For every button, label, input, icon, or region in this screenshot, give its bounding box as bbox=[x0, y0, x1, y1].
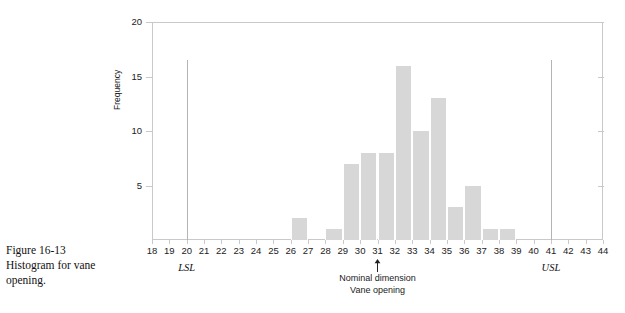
histogram-bar bbox=[482, 229, 499, 240]
histogram-bar bbox=[360, 153, 377, 240]
x-axis-tick bbox=[430, 240, 431, 244]
histogram-bar bbox=[378, 153, 395, 240]
usl-line bbox=[551, 60, 552, 240]
x-axis-tick bbox=[482, 240, 483, 244]
histogram-bar bbox=[291, 218, 308, 240]
histogram-bar bbox=[430, 98, 447, 240]
x-axis-tick bbox=[586, 240, 587, 244]
y-axis-tick-label: 10 bbox=[120, 125, 142, 136]
histogram-bar bbox=[499, 229, 516, 240]
x-axis-tick bbox=[447, 240, 448, 244]
up-arrow-icon bbox=[373, 258, 382, 271]
x-axis-tick bbox=[464, 240, 465, 244]
y-axis-tick-label: 15 bbox=[120, 71, 142, 82]
y-axis-tick-label: 5 bbox=[120, 180, 142, 191]
histogram-figure: Frequency 5101520 1819202122232425262728… bbox=[0, 0, 625, 313]
x-axis-tick bbox=[516, 240, 517, 244]
x-axis-title: Vane opening bbox=[298, 284, 458, 296]
nominal-dimension-annotation: Nominal dimensionVane opening bbox=[298, 272, 458, 296]
x-axis-tick bbox=[360, 240, 361, 244]
x-axis-tick bbox=[395, 240, 396, 244]
x-axis-tick bbox=[343, 240, 344, 244]
x-axis-tick bbox=[603, 240, 604, 244]
x-axis-tick bbox=[499, 240, 500, 244]
x-axis-tick bbox=[291, 240, 292, 244]
lsl-label: LSL bbox=[167, 262, 207, 273]
lsl-line bbox=[187, 60, 188, 240]
x-axis-tick bbox=[256, 240, 257, 244]
bars-layer bbox=[152, 22, 603, 240]
histogram-bar bbox=[447, 207, 464, 240]
histogram-bar bbox=[395, 66, 412, 240]
x-axis-tick bbox=[378, 240, 379, 244]
x-axis-tick-label: 44 bbox=[593, 245, 613, 256]
x-axis-tick bbox=[412, 240, 413, 244]
usl-label: USL bbox=[531, 262, 571, 273]
x-axis-tick bbox=[273, 240, 274, 244]
x-axis-tick bbox=[534, 240, 535, 244]
nominal-dimension-label: Nominal dimension bbox=[298, 272, 458, 284]
histogram-bar bbox=[464, 186, 481, 241]
x-axis-tick bbox=[187, 240, 188, 244]
x-axis-tick bbox=[169, 240, 170, 244]
y-axis-tick-label: 20 bbox=[120, 16, 142, 27]
x-axis-tick bbox=[239, 240, 240, 244]
x-axis-tick bbox=[568, 240, 569, 244]
x-axis-tick bbox=[325, 240, 326, 244]
histogram-bar bbox=[343, 164, 360, 240]
x-axis-tick bbox=[551, 240, 552, 244]
x-axis-tick bbox=[152, 240, 153, 244]
histogram-bar bbox=[325, 229, 342, 240]
histogram-bar bbox=[412, 131, 429, 240]
x-axis-tick bbox=[221, 240, 222, 244]
x-axis-tick bbox=[308, 240, 309, 244]
x-axis-tick bbox=[204, 240, 205, 244]
